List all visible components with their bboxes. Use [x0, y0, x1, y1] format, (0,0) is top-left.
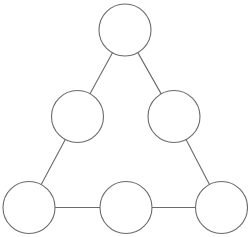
diagram-canvas [0, 0, 248, 237]
nodes-group [3, 4, 248, 234]
node-circle-mid-left[interactable] [52, 91, 104, 143]
node-circle-bottom-right[interactable] [196, 182, 248, 234]
edge-top-midright [138, 53, 161, 94]
triangle-circle-diagram [0, 0, 248, 237]
node-circle-bottom-center[interactable] [100, 182, 152, 234]
node-circle-mid-right[interactable] [148, 91, 200, 143]
edge-midleft-bottomleft [41, 139, 65, 184]
edge-top-midleft [90, 53, 112, 94]
node-circle-top[interactable] [99, 4, 151, 56]
node-circle-bottom-left[interactable] [3, 182, 55, 234]
edge-midright-bottomright [186, 140, 209, 185]
